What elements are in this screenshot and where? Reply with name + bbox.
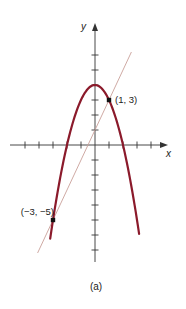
x-axis-label: x: [165, 148, 172, 159]
graph-canvas: x y (1, 3)(−3, −5) (a): [0, 0, 186, 309]
y-axis-arrow-icon: [92, 23, 98, 31]
point-marker: [51, 218, 55, 222]
y-axis: [92, 23, 99, 262]
point-label: (1, 3): [115, 94, 137, 105]
point-label: (−3, −5): [21, 206, 54, 217]
point-marker: [107, 98, 111, 102]
figure-caption: (a): [90, 281, 102, 292]
labeled-points: (1, 3)(−3, −5): [21, 94, 137, 222]
graph-figure: x y (1, 3)(−3, −5) (a): [0, 0, 186, 309]
y-axis-label: y: [80, 21, 87, 32]
